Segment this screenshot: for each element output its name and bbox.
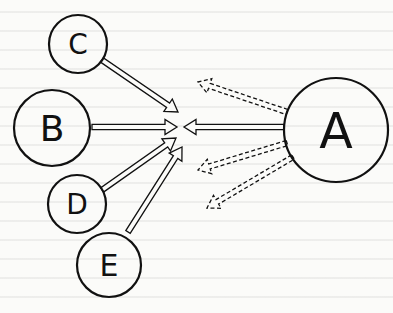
- arrow-e-center-solid: [126, 147, 182, 233]
- node-circle-c: [49, 15, 107, 73]
- diagram-canvas: [0, 0, 393, 313]
- arrow-d-center-solid: [101, 138, 177, 192]
- arrow-a-outward-upper-left-dashed: [198, 79, 288, 115]
- arrow-b-center-solid: [92, 120, 177, 135]
- nodes-layer: [14, 15, 388, 297]
- node-circle-d: [48, 175, 106, 233]
- arrow-c-center-solid: [101, 58, 179, 112]
- node-circle-e: [77, 233, 141, 297]
- node-circle-b: [14, 90, 90, 166]
- edges-layer: [92, 58, 294, 234]
- node-circle-a: [284, 78, 388, 182]
- arrow-a-center-solid: [184, 120, 284, 135]
